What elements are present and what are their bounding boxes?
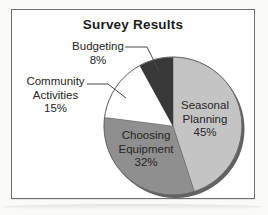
pie-label-community-activities: Community Activities 15% [13, 75, 98, 116]
pie-label-line: Seasonal [158, 99, 252, 113]
pie-label-line: Choosing [101, 129, 191, 143]
screenshot-root: Survey Results Seasonal Planning 45% Cho… [0, 0, 268, 215]
pie-label-line: Equipment [101, 143, 191, 157]
pie-label-budgeting: Budgeting 8% [58, 40, 138, 67]
pie-label-choosing-equipment: Choosing Equipment 32% [101, 129, 191, 170]
pie-label-line: Community [13, 75, 98, 89]
pie-label-percent: 32% [101, 156, 191, 170]
pie-label-percent: 15% [13, 102, 98, 116]
pie-label-line: Budgeting [58, 40, 138, 54]
pie-label-percent: 8% [58, 54, 138, 68]
pie-label-line: Planning [158, 113, 252, 127]
pie-label-line: Activities [13, 89, 98, 103]
